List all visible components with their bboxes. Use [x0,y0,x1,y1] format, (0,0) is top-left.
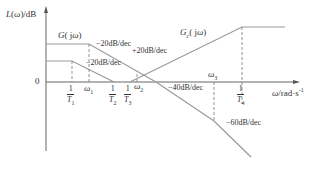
mark-omega1: ω1 [84,84,93,95]
slope-label-g-lower: −20dB/dec [86,59,121,67]
slope-label-g-third: −60dB/dec [226,119,261,127]
slope-label-g-second: −40dB/dec [168,84,203,92]
g-upper-curve [46,44,251,157]
mark-omega3: ω3 [208,70,217,81]
bode-plot [0,0,315,169]
mark-inv-T4: 1 T4 [237,85,244,106]
x-axis-label: ω/rad·s-1 [272,87,304,98]
y-axis-arrow-icon [44,6,48,13]
y-axis-label: L(ω)/dB [6,10,36,19]
mark-inv-T1: 1 T1 [67,85,74,106]
axes [46,12,295,151]
x-axis-arrow-icon [293,80,300,84]
slope-label-g-upper: −20dB/dec [96,40,131,48]
origin-label: 0 [35,77,40,86]
mark-omega2: ω2 [134,82,143,93]
slope-label-gc-rise: +20dB/dec [132,47,167,55]
g-curve-label: G( jω) [58,31,82,40]
mark-inv-T2: 1 T2 [109,85,116,106]
gc-curve-label: Gc( jω) [180,28,206,39]
mark-inv-T3: 1 T3 [124,85,131,106]
